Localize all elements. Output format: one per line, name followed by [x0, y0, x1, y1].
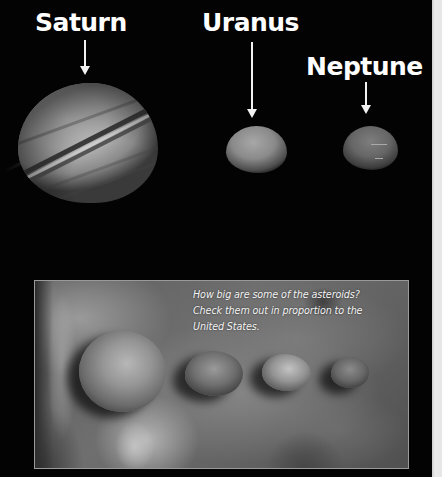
asteroid-1 — [79, 331, 166, 412]
page-edge — [432, 0, 442, 477]
saturn-shadow — [18, 83, 158, 203]
baja-peninsula — [115, 421, 155, 469]
gulf-of-mexico — [265, 431, 345, 469]
asteroid-2 — [185, 351, 243, 396]
caption-line: United States. — [193, 319, 403, 335]
neptune-label: Neptune — [306, 54, 423, 79]
caption-line: How big are some of the asteroids? — [193, 287, 403, 303]
space-background: Saturn Uranus Neptune How big are some o… — [0, 0, 432, 477]
neptune-cloud-streak — [371, 144, 387, 145]
uranus-arrow-icon — [251, 42, 253, 116]
neptune-planet — [343, 126, 398, 170]
saturn-planet — [18, 83, 158, 203]
neptune-arrow-icon — [365, 82, 367, 112]
uranus-label: Uranus — [202, 10, 299, 35]
west-coast — [47, 291, 77, 441]
asteroid-size-inset: How big are some of the asteroids? Check… — [34, 280, 409, 469]
caption-line: Check them out in proportion to the — [193, 303, 403, 319]
neptune-cloud-streak — [375, 158, 383, 159]
saturn-label: Saturn — [35, 10, 127, 35]
asteroid-3 — [262, 354, 311, 391]
uranus-planet — [226, 126, 287, 173]
saturn-arrow-icon — [84, 40, 86, 73]
asteroid-4 — [331, 357, 369, 388]
inset-caption: How big are some of the asteroids? Check… — [193, 287, 403, 335]
